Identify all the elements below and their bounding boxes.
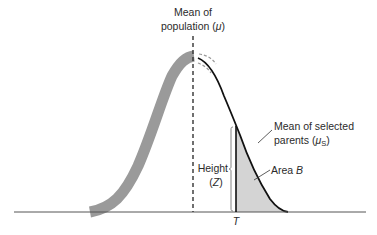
threshold-label: T	[233, 215, 241, 227]
population-mean-label-line1: Mean of	[174, 6, 212, 18]
height-bracket	[229, 127, 233, 211]
population-mean-label-line2: population (μ)	[161, 20, 225, 32]
height-label-line1: Height	[198, 162, 228, 174]
mean-selected-label-line1: Mean of selected	[274, 120, 354, 132]
mean-selected-label-line2: parents (μS)	[274, 134, 330, 148]
height-label-line2: (Z)	[209, 176, 222, 188]
selection-diagram: Mean of population (μ) Mean of selected …	[0, 0, 377, 235]
population-distribution-curve	[90, 56, 194, 212]
mean-selected-leader-line	[258, 130, 272, 143]
area-b-label: Area B	[271, 164, 303, 176]
